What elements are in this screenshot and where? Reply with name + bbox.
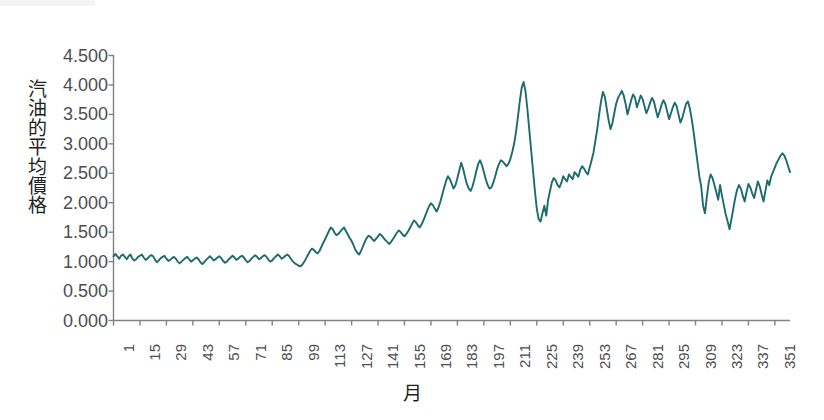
x-tick-label: 183: [463, 344, 480, 369]
x-tick-label: 57: [225, 344, 242, 361]
x-tick-label: 211: [516, 344, 533, 368]
x-tick-label: 1: [120, 344, 137, 352]
chart-figure: 汽 油 的 平 均 價 格 4.5004.0003.5003.0002.5002…: [0, 0, 824, 420]
x-tick-label: 197: [490, 344, 507, 369]
x-tick-label: 225: [543, 344, 560, 369]
x-tick-label: 267: [622, 344, 639, 369]
x-tick-label: 323: [728, 344, 745, 369]
x-tick-label: 127: [358, 344, 375, 369]
x-tick-label: 29: [172, 344, 189, 361]
x-tick-label: 281: [649, 344, 666, 369]
x-axis-title: 月: [0, 378, 824, 405]
x-tick-label: 239: [569, 344, 586, 369]
x-tick-label: 141: [384, 344, 401, 369]
x-tick-label: 71: [252, 344, 269, 361]
x-tick-label: 169: [437, 344, 454, 369]
x-tick-label: 113: [331, 344, 348, 368]
x-tick-label: 253: [596, 344, 613, 369]
x-tick-label: 295: [675, 344, 692, 369]
x-tick-label: 43: [199, 344, 216, 361]
x-tick-label: 99: [305, 344, 322, 361]
x-tick-label: 85: [278, 344, 295, 361]
x-tick-label: 351: [781, 344, 798, 369]
x-tick-label: 337: [754, 344, 771, 369]
x-tick-label: 15: [146, 344, 163, 361]
x-tick-label: 309: [702, 344, 719, 369]
x-tick-label: 155: [411, 344, 428, 369]
